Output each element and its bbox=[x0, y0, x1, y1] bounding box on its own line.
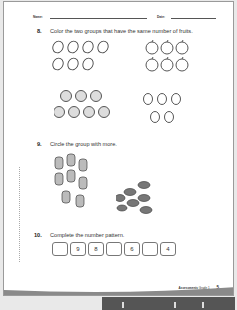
date-line[interactable] bbox=[171, 18, 216, 19]
viewer-toolbar[interactable] bbox=[102, 297, 235, 310]
pattern-box: 8 bbox=[88, 242, 104, 256]
apple-group-icon[interactable] bbox=[145, 40, 193, 72]
pattern-box[interactable] bbox=[106, 242, 122, 256]
bat-group-icon[interactable] bbox=[116, 180, 161, 216]
bear-group-icon[interactable] bbox=[53, 153, 93, 213]
pattern-box: 4 bbox=[160, 242, 176, 256]
pattern-box: 9 bbox=[70, 242, 86, 256]
date-label: Date: bbox=[157, 15, 165, 19]
toolbar-marker bbox=[202, 302, 204, 308]
worksheet-page: Name: Date: 8. Color the two groups that… bbox=[3, 1, 234, 296]
name-line[interactable] bbox=[50, 18, 147, 19]
number-pattern: 9 8 6 4 bbox=[52, 242, 176, 256]
question-9-prompt: Circle the group with more. bbox=[50, 141, 117, 147]
toolbar-marker bbox=[122, 302, 124, 308]
footer-swoosh bbox=[4, 287, 234, 295]
copyright-vertical-text bbox=[19, 167, 22, 262]
pear-group-icon[interactable] bbox=[142, 89, 187, 125]
question-8-number: 8. bbox=[37, 28, 42, 34]
question-9-number: 9. bbox=[37, 141, 42, 147]
toolbar-marker bbox=[174, 302, 176, 308]
pattern-box[interactable] bbox=[52, 242, 68, 256]
name-label: Name: bbox=[33, 15, 43, 19]
pattern-box[interactable] bbox=[142, 242, 158, 256]
question-10-prompt: Complete the number pattern. bbox=[50, 232, 124, 238]
question-10-number: 10. bbox=[34, 232, 42, 238]
strawberry-group-icon[interactable] bbox=[54, 88, 114, 120]
question-8-prompt: Color the two groups that have the same … bbox=[50, 28, 193, 34]
mango-group-icon[interactable] bbox=[52, 40, 112, 72]
pattern-box: 6 bbox=[124, 242, 140, 256]
